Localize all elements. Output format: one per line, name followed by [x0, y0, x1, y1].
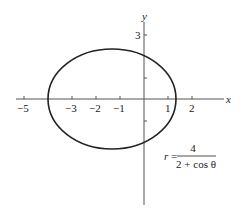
polar-plot: x y −5 −3 −2 −1 1 2 3 r = 4 2 + cos θ — [0, 0, 242, 219]
y-tick-label: 3 — [135, 29, 141, 41]
y-axis-label: y — [141, 10, 147, 22]
equation-denominator: 2 + cos θ — [176, 158, 216, 170]
x-axis-label: x — [225, 93, 231, 105]
equation-numerator: 4 — [190, 142, 196, 154]
x-tick-label: 1 — [165, 102, 171, 114]
x-tick-label: −5 — [17, 102, 29, 114]
x-tick-label: 2 — [189, 102, 195, 114]
x-tick-label: −3 — [65, 102, 77, 114]
x-tick-label: −1 — [113, 102, 125, 114]
equation-label: r = 4 2 + cos θ — [164, 142, 216, 170]
x-tick-label: −2 — [89, 102, 101, 114]
